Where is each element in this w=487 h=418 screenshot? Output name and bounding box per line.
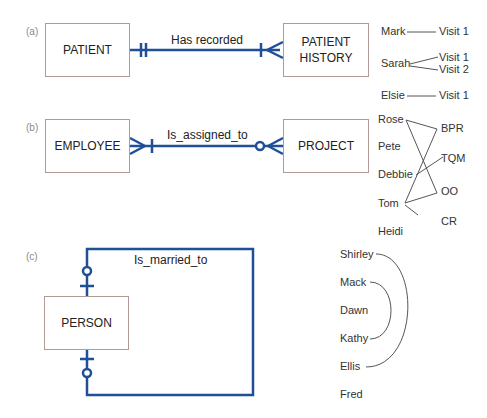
relationship-is-assigned-to: Is_assigned_to	[167, 128, 248, 142]
entity-label-line2: HISTORY	[300, 50, 353, 66]
entity-patient-history[interactable]: PATIENT HISTORY	[283, 23, 369, 77]
instance-oo: OO	[441, 185, 458, 197]
instance-cr: CR	[441, 215, 457, 227]
entity-label: PROJECT	[298, 138, 354, 154]
instance-heidi: Heidi	[378, 225, 403, 237]
instance-ellis: Ellis	[340, 360, 360, 372]
entity-label: PATIENT	[63, 42, 112, 58]
instance-shirley: Shirley	[340, 248, 374, 260]
panel-b-label: (b)	[26, 122, 38, 133]
instance-tqm: TQM	[441, 152, 465, 164]
instance-rose: Rose	[378, 113, 404, 125]
instance-visit: Visit 1	[439, 89, 469, 101]
instance-mark: Mark	[381, 25, 405, 37]
instance-bpr: BPR	[441, 122, 464, 134]
instance-pete: Pete	[378, 140, 401, 152]
entity-label: EMPLOYEE	[54, 138, 120, 154]
entity-label-line1: PATIENT	[302, 34, 351, 50]
instance-visit: Visit 1	[439, 51, 469, 63]
instance-debbie: Debbie	[378, 168, 413, 180]
entity-person[interactable]: PERSON	[44, 296, 129, 350]
entity-patient[interactable]: PATIENT	[45, 23, 130, 77]
entity-label: PERSON	[61, 315, 112, 331]
instance-mack: Mack	[340, 276, 366, 288]
instance-elsie: Elsie	[381, 89, 405, 101]
panel-c-label: (c)	[26, 251, 38, 262]
instance-sarah: Sarah	[381, 57, 410, 69]
instance-dawn: Dawn	[340, 304, 368, 316]
instance-visit: Visit 2	[439, 63, 469, 75]
instance-tom: Tom	[378, 197, 399, 209]
entity-employee[interactable]: EMPLOYEE	[45, 119, 130, 173]
instance-visit: Visit 1	[439, 25, 469, 37]
instance-kathy: Kathy	[340, 332, 368, 344]
panel-a-label: (a)	[26, 26, 38, 37]
relationship-has-recorded: Has recorded	[171, 33, 243, 47]
instance-fred: Fred	[340, 388, 363, 400]
relationship-is-married-to: Is_married_to	[134, 253, 207, 267]
entity-project[interactable]: PROJECT	[283, 119, 369, 173]
